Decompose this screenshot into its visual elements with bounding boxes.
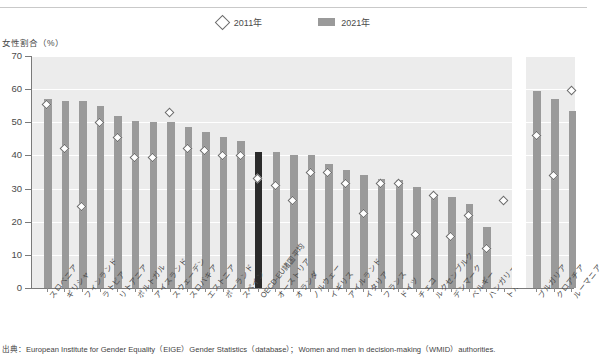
y-axis-tick-label: 30: [0, 183, 22, 194]
bar-2021: [97, 106, 105, 288]
legend-item-2021: 2021年: [318, 16, 370, 29]
diamond-icon: [215, 14, 231, 30]
legend-label-2011: 2011年: [234, 16, 262, 29]
bar-swatch-icon: [318, 18, 335, 26]
bar-2021: [551, 99, 559, 288]
y-axis-title: 女性割合（%）: [2, 36, 64, 48]
legend-item-2011: 2011年: [217, 16, 262, 29]
y-axis-tick-label: 50: [0, 116, 22, 127]
y-axis-tick: [25, 56, 31, 57]
bar-2021: [533, 91, 541, 288]
gridline: [32, 89, 575, 90]
y-axis-tick-label: 10: [0, 249, 22, 260]
y-axis-tick: [25, 288, 31, 289]
y-axis-tick: [25, 255, 31, 256]
bar-highlight: [255, 152, 263, 288]
y-axis-tick: [25, 189, 31, 190]
legend-label-2021: 2021年: [341, 16, 370, 29]
y-axis-tick-label: 60: [0, 83, 22, 94]
y-axis-tick-label: 40: [0, 149, 22, 160]
gridline: [32, 56, 575, 57]
plot-area: [31, 56, 575, 288]
bar-2021: [62, 101, 70, 288]
bar-2021: [569, 111, 577, 288]
y-axis-tick-label: 20: [0, 216, 22, 227]
source-note: 出典：European Institute for Gender Equalit…: [2, 343, 495, 354]
y-axis-tick: [25, 155, 31, 156]
y-axis-tick-label: 0: [0, 282, 22, 293]
y-axis-tick-label: 70: [0, 50, 22, 61]
bar-2021: [44, 99, 52, 288]
group-separator: [512, 56, 525, 288]
bar-2021: [431, 194, 439, 288]
top-divider: [0, 7, 587, 8]
y-axis-tick: [25, 222, 31, 223]
chart-legend: 2011年 2021年: [0, 12, 587, 32]
y-axis-tick: [25, 89, 31, 90]
bar-2021: [79, 101, 87, 288]
y-axis-tick: [25, 122, 31, 123]
